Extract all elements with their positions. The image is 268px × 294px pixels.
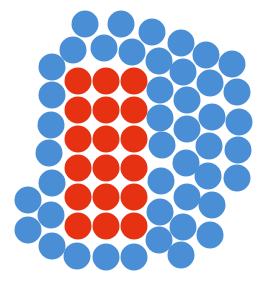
blue-dot [15,217,42,244]
blue-dot [146,48,173,75]
blue-dot [197,70,224,97]
blue-dot [91,35,118,62]
blue-dot [195,163,222,190]
blue-dot [39,54,66,81]
red-dot [93,126,120,153]
blue-dot [170,214,197,241]
blue-dot [38,112,65,139]
red-dot [65,213,92,240]
blue-dot [119,39,146,66]
blue-dot [225,137,252,164]
blue-dot [39,82,66,109]
red-dot [65,68,92,95]
blue-dot [168,30,195,57]
blue-dot [38,202,65,229]
blue-dot [149,132,176,159]
blue-dot [196,133,223,160]
blue-dot [64,243,91,270]
red-dot [65,97,92,124]
blue-dot [39,233,66,260]
red-dot [121,155,148,182]
blue-dot [148,168,175,195]
red-dot [93,97,120,124]
red-dot [121,213,148,240]
red-dot [65,126,92,153]
blue-dot [197,222,224,249]
blue-dot [139,19,166,46]
blue-dot [193,42,220,69]
blue-dot [168,242,195,269]
red-dot [65,184,92,211]
red-dot [65,155,92,182]
red-dot [121,184,148,211]
red-dot [121,126,148,153]
blue-dot [146,227,173,254]
red-dot [93,68,120,95]
dot-cluster-diagram [0,0,268,294]
blue-dot [36,140,63,167]
red-dot-group [65,68,148,240]
blue-dot [199,192,226,219]
blue-dot [72,11,99,38]
blue-dot [147,77,174,104]
blue-dot [226,109,253,136]
blue-dot [224,79,251,106]
red-dot [93,155,120,182]
blue-dot [147,105,174,132]
blue-dot [60,37,87,64]
blue-dot [224,165,251,192]
red-dot [121,97,148,124]
blue-dot [174,116,201,143]
dot-cluster-svg [0,0,268,294]
blue-dot [93,244,120,271]
blue-dot [174,184,201,211]
blue-dot [39,170,66,197]
blue-dot [199,104,226,131]
blue-dot [121,244,148,271]
blue-dot [219,51,246,78]
blue-dot [108,11,135,38]
blue-dot [15,187,42,214]
red-dot [93,184,120,211]
blue-dot [174,87,201,114]
blue-dot [147,199,174,226]
red-dot [121,68,148,95]
blue-dot [170,59,197,86]
red-dot [93,213,120,240]
